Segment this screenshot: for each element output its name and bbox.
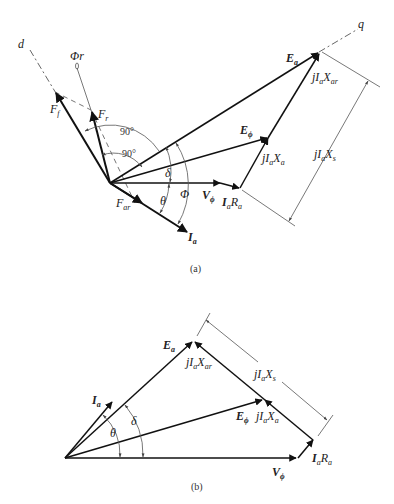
angle-label-theta-b: θ [110,426,116,440]
ea-label: Ea [285,51,298,67]
jiaxa-label-b: jIaXa [254,409,279,425]
flux-axis-label: Φr [70,49,84,63]
q-axis-line [319,29,358,52]
ia-vector-b [65,402,112,458]
panel-b-caption: (b) [191,481,203,493]
jiaxs-dimension-line-top-b [206,320,258,362]
jiaxs-extension-bottom-b [318,415,333,436]
vphi-label: Vϕ [202,188,215,204]
ff-label: Ff [49,102,61,118]
d-axis-label: d [18,37,25,51]
far-label: Far [115,196,131,212]
angle-label-theta: θ [160,194,166,208]
panel-b: Ia θ δ Ea jIaXar jIaXs Eϕ jIaXa IaRa Vϕ … [65,313,333,493]
phasor-diagram-figure: d q Φr Ff Fr Far 90° 90° δ θ Φ Ea Eϕ Vϕ … [0,0,394,504]
angle-label-delta-b: δ [131,414,137,428]
ea-vector-b [65,342,192,458]
jiaxs-extension-bottom [242,190,295,226]
jiaxs-extension-top-b [197,313,210,336]
angle-label-delta: δ [165,166,171,180]
ea-label-b: Ea [162,338,175,354]
ia-label-b: Ia [91,393,101,409]
iara-vector-b [298,440,313,458]
q-axis-label: q [358,17,364,31]
jiaxar-label-b: jIaXar [184,355,213,371]
jiaxs-label: jIaXs [312,147,336,163]
jiaxs-label-b: jIaXs [252,367,276,383]
panel-a-caption: (a) [190,263,201,275]
iara-vector [220,183,239,188]
iara-label-b: IaRa [311,451,332,467]
panel-a: d q Φr Ff Fr Far 90° 90° δ θ Φ Ea Eϕ Vϕ … [18,17,380,275]
angle-label-phi: Φ [180,187,189,201]
ephi-vector [110,138,267,183]
angle-arc-delta-b [125,405,143,457]
ephi-vector-b [65,400,262,458]
ephi-label: Eϕ [239,123,253,139]
ea-vector [110,53,318,183]
far-vector [110,183,142,203]
jiaxa-label: jIaXa [260,151,285,167]
ephi-label-b: Eϕ [235,409,249,425]
iara-label: IaRa [221,195,242,211]
ia-label: Ia [187,230,197,246]
angle-label-90-inner: 90° [122,148,136,159]
flux-axis-line [77,68,91,110]
jiaxar-label: jIaXar [310,70,339,86]
angle-label-90-outer: 90° [120,126,134,137]
jiaxs-dimension-line-bottom-b [282,382,327,420]
fr-label: Fr [97,107,109,123]
vphi-label-b: Vϕ [272,465,285,481]
